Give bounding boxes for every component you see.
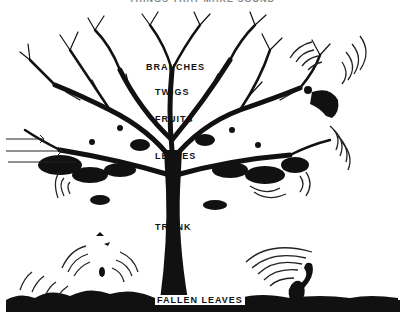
label-fruits: FRUITS <box>155 114 194 124</box>
label-twigs: TWIGS <box>155 87 190 97</box>
tree-illustration <box>0 0 404 329</box>
label-trunk: TRUNK <box>155 222 192 232</box>
label-fallen-leaves: FALLEN LEAVES <box>155 295 245 305</box>
falling-squirrel-shape <box>310 90 338 118</box>
label-leaves: LEAVES <box>155 151 196 161</box>
tree-sound-diagram: THINGS THAT MAKE SOUND <box>0 0 404 329</box>
label-branches: BRANCHES <box>146 62 205 72</box>
